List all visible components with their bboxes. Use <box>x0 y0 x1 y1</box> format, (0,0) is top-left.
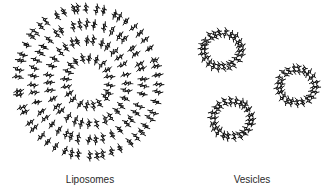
vesicle-bottom <box>207 95 257 142</box>
vesicle-top-left <box>198 27 247 73</box>
vesicles-illustration <box>198 27 322 142</box>
vesicle-right <box>273 63 321 108</box>
membrane-diagram <box>0 0 329 193</box>
liposome-bilayer-ring-3 <box>43 34 134 129</box>
liposome-illustration <box>12 3 164 162</box>
vesicles-label: Vesicles <box>234 174 271 185</box>
liposome-bilayer-ring-4 <box>60 53 115 111</box>
liposomes-label: Liposomes <box>66 174 114 185</box>
